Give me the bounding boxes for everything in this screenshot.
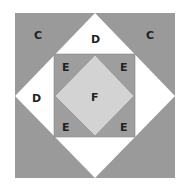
label-c-right: C	[146, 29, 154, 42]
quilt-block-diagram: C D C D E E F E E	[0, 0, 183, 188]
label-f-center: F	[91, 91, 99, 104]
label-c-left: C	[34, 29, 42, 42]
label-e-bottom-left: E	[62, 121, 70, 134]
label-e-bottom-right: E	[120, 121, 128, 134]
label-e-top-left: E	[62, 61, 70, 74]
label-d-left: D	[32, 92, 41, 105]
label-d-top: D	[91, 33, 100, 46]
label-e-top-right: E	[120, 61, 128, 74]
